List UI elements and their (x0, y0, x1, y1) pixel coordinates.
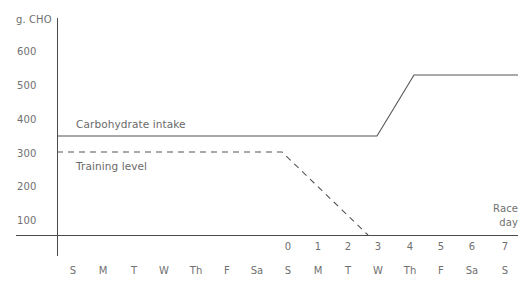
y-tick-200: 200 (17, 181, 47, 192)
weekday-11: Th (404, 265, 417, 276)
countdown-4: 4 (407, 241, 413, 252)
weekday-1: M (99, 265, 108, 276)
y-tick-600: 600 (17, 46, 47, 57)
y-tick-100: 100 (17, 215, 47, 226)
countdown-2: 2 (345, 241, 351, 252)
y-tick-500: 500 (17, 80, 47, 91)
weekday-6: Sa (251, 265, 264, 276)
weekday-3: W (159, 265, 169, 276)
y-tick-300: 300 (17, 148, 47, 159)
race-day-line1: Race (486, 202, 518, 216)
y-tick-400: 400 (17, 114, 47, 125)
weekday-2: T (131, 265, 137, 276)
weekday-12: F (438, 265, 444, 276)
race-day-label: Race day (486, 202, 518, 230)
countdown-6: 6 (469, 241, 475, 252)
weekday-5: F (224, 265, 230, 276)
training-level-label: Training level (76, 160, 147, 172)
y-axis-title: g. CHO (16, 14, 52, 25)
countdown-1: 1 (315, 241, 321, 252)
chart-canvas (0, 0, 528, 287)
weekday-7: S (285, 265, 291, 276)
countdown-7: 7 (502, 241, 508, 252)
countdown-3: 3 (375, 241, 381, 252)
weekday-8: M (314, 265, 323, 276)
weekday-13: Sa (466, 265, 479, 276)
weekday-4: Th (190, 265, 203, 276)
weekday-0: S (70, 265, 76, 276)
race-day-line2: day (486, 216, 518, 230)
weekday-10: W (373, 265, 383, 276)
weekday-14: S (502, 265, 508, 276)
carbohydrate-intake-label: Carbohydrate intake (76, 118, 186, 130)
weekday-9: T (345, 265, 351, 276)
countdown-0: 0 (285, 241, 291, 252)
countdown-5: 5 (438, 241, 444, 252)
